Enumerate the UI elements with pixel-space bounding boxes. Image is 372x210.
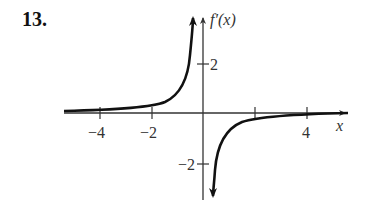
y-axis-label: f′(x) bbox=[210, 11, 236, 29]
x-tick-label: −2 bbox=[140, 124, 157, 141]
x-axis-label: x bbox=[335, 117, 343, 134]
curve-right-branch bbox=[213, 113, 348, 196]
x-tick-label: −4 bbox=[88, 124, 105, 141]
derivative-graph: −4 −2 4 2 −2 x f′(x) bbox=[0, 0, 372, 210]
x-tick-label: 4 bbox=[302, 124, 310, 141]
curve-left-branch bbox=[64, 18, 193, 111]
y-tick-label: 2 bbox=[210, 56, 218, 73]
y-tick-label: −2 bbox=[178, 156, 195, 173]
